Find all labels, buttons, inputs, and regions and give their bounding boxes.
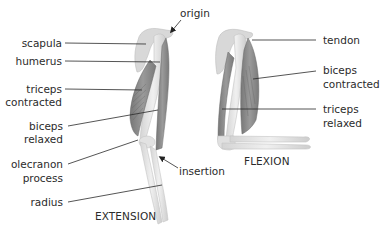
label-triceps-relaxed-line1: triceps xyxy=(323,103,359,116)
label-olecranon-line1: olecranon xyxy=(11,158,63,171)
muscle-diagram: origin scapula humerus triceps contracte… xyxy=(0,0,386,231)
label-triceps-contracted-line2: contracted xyxy=(5,96,62,109)
biceps-contracted-leader xyxy=(253,71,316,79)
label-triceps-relaxed-line2: relaxed xyxy=(323,117,362,130)
caption-extension: EXTENSION xyxy=(95,210,156,223)
origin-arrow xyxy=(171,20,181,32)
label-olecranon-line2: process xyxy=(23,172,63,185)
label-biceps-contracted-line1: biceps xyxy=(323,64,357,77)
label-biceps-contracted-line2: contracted xyxy=(323,78,380,91)
extension-arm-illustration xyxy=(130,28,173,224)
label-origin: origin xyxy=(180,7,210,20)
label-biceps-relaxed-line2: relaxed xyxy=(24,133,63,146)
scapula-leader xyxy=(65,43,146,44)
insertion-arrow xyxy=(160,157,178,168)
flexion-arm-illustration xyxy=(216,29,311,150)
label-scapula: scapula xyxy=(22,37,62,50)
label-biceps-relaxed-line1: biceps xyxy=(29,120,63,133)
radius-leader xyxy=(68,185,162,202)
label-tendon: tendon xyxy=(323,34,360,47)
triceps-contracted-leader xyxy=(65,89,142,90)
label-insertion: insertion xyxy=(179,165,225,178)
caption-flexion: FLEXION xyxy=(244,155,290,168)
label-triceps-contracted-line1: triceps xyxy=(26,83,62,96)
label-humerus: humerus xyxy=(16,55,62,68)
olecranon-leader xyxy=(68,140,138,164)
label-radius: radius xyxy=(31,196,63,209)
